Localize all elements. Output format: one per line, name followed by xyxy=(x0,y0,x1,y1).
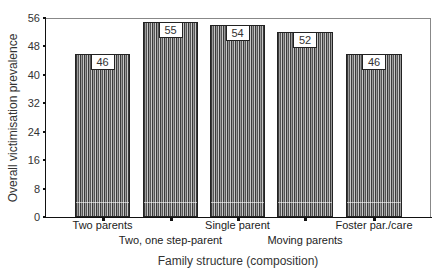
x-category-label: Two, one step-parent xyxy=(119,234,222,246)
bar xyxy=(277,32,333,217)
bar xyxy=(143,22,198,217)
x-tick-mark xyxy=(170,218,173,221)
bar-value-label: 46 xyxy=(362,54,386,70)
x-tick-mark xyxy=(304,218,307,221)
bar-value-label: 55 xyxy=(159,22,183,38)
bar-chart: 08162432404856 4655545246 Two parentsTwo… xyxy=(0,0,442,277)
x-category-label: Single parent xyxy=(205,219,270,231)
y-axis-title: Overall victimisation prevalence xyxy=(6,34,20,203)
bar xyxy=(210,25,265,217)
bar-highlight-line xyxy=(347,202,401,203)
bar-highlight-line xyxy=(76,202,129,203)
x-axis-title: Family structure (composition) xyxy=(158,254,319,268)
bar xyxy=(75,54,130,217)
bar-value-label: 52 xyxy=(293,32,317,48)
y-tick-mark xyxy=(43,17,46,19)
y-tick-label: 0 xyxy=(12,211,40,223)
y-tick-label: 56 xyxy=(12,12,40,24)
y-tick-mark xyxy=(43,188,46,190)
x-category-label: Moving parents xyxy=(267,234,342,246)
bar-highlight-line xyxy=(278,202,332,203)
y-tick-mark xyxy=(43,45,46,47)
x-category-label: Foster par./care xyxy=(335,219,412,231)
y-tick-mark xyxy=(43,159,46,161)
y-tick-mark xyxy=(43,74,46,76)
bar-highlight-line xyxy=(144,202,197,203)
bar-value-label: 46 xyxy=(91,54,115,70)
bar-value-label: 54 xyxy=(226,25,250,41)
y-tick-mark xyxy=(43,102,46,104)
y-tick-mark xyxy=(43,131,46,133)
y-tick-mark xyxy=(43,216,46,218)
bar-highlight-line xyxy=(211,202,264,203)
x-category-label: Two parents xyxy=(73,219,133,231)
bar xyxy=(346,54,402,217)
